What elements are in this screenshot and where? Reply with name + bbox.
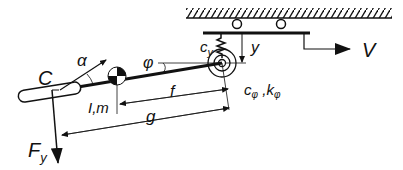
- label-alpha: α: [77, 51, 88, 70]
- label-cy: cy: [200, 38, 215, 58]
- label-Im: I,m: [88, 99, 109, 116]
- label-V: V: [362, 39, 377, 61]
- label-y: y: [250, 39, 260, 56]
- label-f: f: [170, 83, 176, 100]
- force-Fy-arrow: [52, 90, 58, 163]
- alpha-arc: [87, 74, 93, 84]
- label-Fy: Fy: [28, 139, 48, 165]
- ground: [186, 8, 392, 18]
- shimmy-model-diagram: V y cy cφ ,kφ φ C α I,m f: [0, 0, 403, 170]
- rollers: [233, 20, 286, 29]
- label-cphi-kphi: cφ ,kφ: [244, 81, 281, 100]
- velocity-arrow: [304, 33, 350, 49]
- label-g: g: [146, 107, 156, 126]
- spring-cy: [217, 34, 225, 58]
- label-C: C: [38, 67, 53, 89]
- center-of-mass-icon: [108, 67, 126, 114]
- label-phi: φ: [143, 54, 153, 71]
